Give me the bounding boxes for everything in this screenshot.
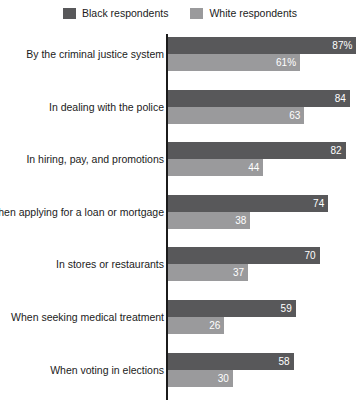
bar-group: In dealing with the police8463	[0, 88, 360, 126]
bar-group: When voting in elections5830	[0, 351, 360, 389]
bar-pair: 8463	[168, 90, 350, 124]
legend-swatch-black-icon	[63, 8, 76, 19]
bar-white-respondents: 26	[168, 317, 224, 334]
bar-value-label: 61%	[276, 54, 300, 71]
category-label: In hiring, pay, and promotions	[26, 140, 164, 178]
bar-black-respondents: 87%	[168, 37, 356, 54]
bar-black-respondents: 58	[168, 353, 294, 370]
bar-pair: 7037	[168, 247, 320, 281]
axis-tick	[166, 338, 168, 343]
legend-entry-black-respondents: Black respondents	[63, 8, 168, 19]
bar-value-label: 44	[248, 159, 263, 176]
bar-value-label: 38	[235, 212, 250, 229]
axis-tick	[166, 75, 168, 80]
category-label: By the criminal justice system	[26, 35, 164, 73]
bar-white-respondents: 38	[168, 212, 250, 229]
bar-value-label: 30	[218, 370, 233, 387]
bar-black-respondents: 84	[168, 90, 350, 107]
legend-label-white-respondents: White respondents	[209, 8, 297, 19]
bar-value-label: 84	[335, 90, 350, 107]
category-label: In stores or restaurants	[56, 245, 164, 283]
bar-value-label: 26	[209, 317, 224, 334]
category-label: In dealing with the police	[49, 88, 164, 126]
bar-black-respondents: 82	[168, 142, 346, 159]
category-label: When applying for a loan or mortgage	[0, 193, 164, 231]
bar-value-label: 58	[278, 353, 293, 370]
bar-black-respondents: 70	[168, 247, 320, 264]
bar-pair: 5830	[168, 353, 294, 387]
axis-tick	[166, 233, 168, 238]
category-label: When voting in elections	[50, 351, 164, 389]
bar-pair: 5926	[168, 300, 296, 334]
legend-label-black-respondents: Black respondents	[82, 8, 168, 19]
bar-group: When applying for a loan or mortgage7438	[0, 193, 360, 231]
bar-value-label: 87%	[332, 37, 356, 54]
plot-area: By the criminal justice system87%61%In d…	[0, 32, 360, 404]
bar-white-respondents: 37	[168, 264, 248, 281]
axis-tick	[166, 128, 168, 133]
category-label: When seeking medical treatment	[11, 298, 164, 336]
chart-legend: Black respondents White respondents	[0, 4, 360, 22]
bar-pair: 7438	[168, 195, 328, 229]
bar-chart: Black respondents White respondents By t…	[0, 0, 360, 409]
bar-value-label: 63	[289, 107, 304, 124]
bar-value-label: 82	[330, 142, 345, 159]
bar-group: In stores or restaurants7037	[0, 245, 360, 283]
bar-pair: 8244	[168, 142, 346, 176]
bar-group: By the criminal justice system87%61%	[0, 35, 360, 73]
bar-white-respondents: 61%	[168, 54, 300, 71]
bar-value-label: 70	[304, 247, 319, 264]
legend-entry-white-respondents: White respondents	[190, 8, 297, 19]
axis-tick	[166, 285, 168, 290]
bar-group: In hiring, pay, and promotions8244	[0, 140, 360, 178]
bar-black-respondents: 74	[168, 195, 328, 212]
bar-value-label: 59	[281, 300, 296, 317]
axis-tick	[166, 180, 168, 185]
bar-white-respondents: 30	[168, 370, 233, 387]
bar-white-respondents: 44	[168, 159, 263, 176]
legend-swatch-white-icon	[190, 8, 203, 19]
bar-value-label: 37	[233, 264, 248, 281]
bar-black-respondents: 59	[168, 300, 296, 317]
bar-value-label: 74	[313, 195, 328, 212]
bar-group: When seeking medical treatment5926	[0, 298, 360, 336]
bar-white-respondents: 63	[168, 107, 304, 124]
bar-pair: 87%61%	[168, 37, 356, 71]
